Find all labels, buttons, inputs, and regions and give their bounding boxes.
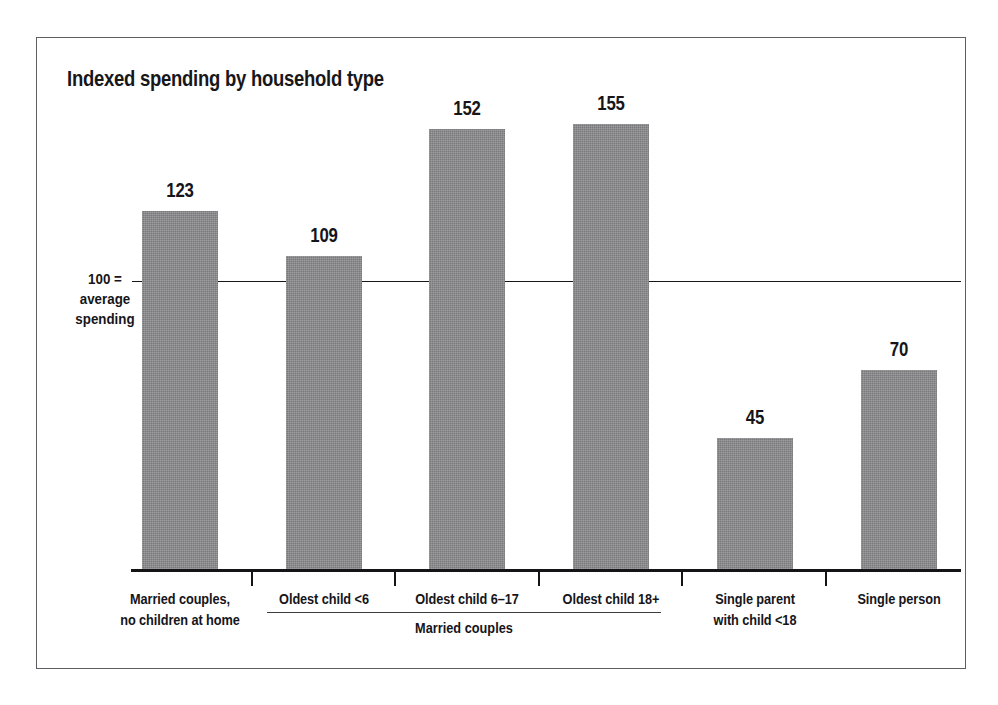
x-axis-line	[131, 569, 961, 572]
bar-value-label: 109	[282, 224, 366, 247]
bar-single-person	[861, 370, 937, 569]
category-label-married-no-children: Married couples, no children at home	[112, 589, 248, 630]
category-label-single-parent: Single parent with child <18	[687, 589, 823, 630]
group-bracket-line	[267, 612, 661, 613]
bar-value-label: 45	[713, 406, 797, 429]
bar-oldest-child-6-17	[429, 129, 505, 569]
group-bracket-label: Married couples	[396, 619, 532, 636]
category-label-line-1: Oldest child 18+	[543, 589, 679, 610]
axis-tick	[825, 571, 827, 586]
category-label-line-1: Single parent	[687, 589, 823, 610]
axis-tick	[681, 571, 683, 586]
axis-tick	[538, 571, 540, 586]
reference-line-100	[132, 281, 961, 282]
category-label-oldest-under-6: Oldest child <6	[256, 589, 392, 610]
bar-value-label: 152	[425, 97, 509, 120]
bar-value-label: 155	[569, 92, 653, 115]
category-label-line-1: Married couples,	[112, 589, 248, 610]
bar-oldest-child-18-plus	[573, 124, 649, 569]
page-canvas: Indexed spending by household type 100 =…	[0, 0, 998, 705]
category-label-single-person: Single person	[831, 589, 967, 610]
bar-value-label: 70	[857, 338, 941, 361]
bar-oldest-child-under-6	[286, 256, 362, 569]
axis-tick	[394, 571, 396, 586]
reference-label-line-3: spending	[64, 309, 147, 329]
bar-single-parent-with-child	[717, 438, 793, 569]
category-label-line-2: no children at home	[112, 610, 248, 631]
category-label-line-1: Oldest child 6–17	[399, 589, 535, 610]
category-label-oldest-18-plus: Oldest child 18+	[543, 589, 679, 610]
axis-tick	[251, 571, 253, 586]
category-label-line-1: Oldest child <6	[256, 589, 392, 610]
plot-area: 100 = average spending 123 109 152 155 4…	[37, 38, 967, 670]
chart-frame: Indexed spending by household type 100 =…	[36, 37, 966, 669]
reference-label-line-1: 100 =	[64, 269, 147, 289]
category-label-oldest-6-17: Oldest child 6–17	[399, 589, 535, 610]
reference-label-line-2: average	[64, 289, 147, 309]
category-label-line-2: with child <18	[687, 610, 823, 631]
bar-value-label: 123	[138, 179, 222, 202]
bar-married-couples-no-children	[142, 211, 218, 569]
reference-line-label: 100 = average spending	[64, 269, 147, 329]
category-label-line-1: Single person	[831, 589, 967, 610]
